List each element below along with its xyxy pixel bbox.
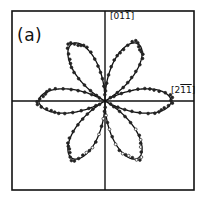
data-marker <box>81 118 84 121</box>
data-marker <box>85 151 88 154</box>
data-marker <box>80 109 83 112</box>
data-marker <box>83 84 86 87</box>
label-part: ] <box>192 85 196 95</box>
data-marker <box>118 110 121 113</box>
data-marker <box>121 152 124 155</box>
data-marker <box>40 106 43 109</box>
label-part: ] <box>131 11 135 21</box>
data-marker <box>99 71 102 74</box>
data-marker <box>103 93 106 96</box>
data-marker <box>97 65 100 68</box>
data-marker <box>94 141 97 144</box>
data-marker <box>113 59 116 62</box>
data-marker <box>48 88 51 91</box>
data-marker <box>70 88 73 91</box>
data-marker <box>66 142 69 145</box>
data-marker <box>143 87 146 90</box>
x-direction-label: [211] <box>171 85 195 95</box>
data-marker <box>104 90 107 93</box>
data-marker <box>36 100 39 103</box>
data-marker <box>109 103 112 106</box>
data-marker <box>138 63 141 66</box>
data-marker <box>138 159 141 162</box>
data-marker <box>88 149 91 152</box>
data-marker <box>70 159 73 162</box>
data-marker <box>87 107 90 110</box>
data-marker <box>134 39 137 42</box>
data-marker <box>122 48 125 51</box>
data-marker <box>112 105 115 108</box>
data-marker <box>131 40 134 43</box>
data-marker <box>100 125 103 128</box>
data-marker <box>141 57 144 60</box>
data-marker <box>124 115 127 118</box>
data-marker <box>119 51 122 54</box>
data-marker <box>50 109 53 112</box>
data-marker <box>139 142 142 145</box>
data-marker <box>90 93 93 96</box>
data-marker <box>134 70 137 73</box>
data-marker <box>38 98 41 101</box>
data-marker <box>139 138 142 141</box>
data-marker <box>91 146 94 149</box>
data-marker <box>104 106 107 109</box>
data-marker <box>158 90 161 93</box>
data-marker <box>69 156 72 159</box>
data-marker <box>171 96 174 99</box>
data-marker <box>158 111 161 114</box>
data-marker <box>95 104 98 107</box>
label-part: [2 <box>171 85 180 95</box>
data-marker <box>105 82 108 85</box>
data-marker <box>89 89 92 92</box>
data-marker <box>170 99 173 102</box>
data-marker <box>63 112 66 115</box>
data-marker <box>91 108 94 111</box>
data-marker <box>120 92 123 95</box>
data-marker <box>103 110 106 113</box>
data-marker <box>77 89 80 92</box>
data-marker <box>127 154 130 157</box>
data-marker <box>122 86 125 89</box>
data-marker <box>67 43 70 46</box>
data-marker <box>116 106 119 109</box>
data-marker <box>116 91 119 94</box>
data-marker <box>69 62 72 65</box>
data-marker <box>147 112 150 115</box>
data-marker <box>167 104 170 107</box>
data-marker <box>77 157 80 160</box>
data-marker <box>42 95 45 98</box>
data-marker <box>111 135 114 138</box>
data-marker <box>123 108 126 111</box>
data-marker <box>44 93 47 96</box>
data-marker <box>98 103 101 106</box>
label-part: [01 <box>110 11 125 21</box>
data-marker <box>106 121 109 124</box>
data-marker <box>89 51 92 54</box>
data-marker <box>140 156 143 159</box>
data-marker <box>109 96 112 99</box>
data-marker <box>105 114 108 117</box>
data-marker <box>128 90 131 93</box>
data-marker <box>102 117 105 120</box>
data-marker <box>101 77 104 80</box>
data-marker <box>73 43 76 46</box>
data-marker <box>71 111 74 114</box>
data-marker <box>54 87 57 90</box>
data-marker <box>69 151 72 154</box>
data-marker <box>139 111 142 114</box>
data-marker <box>95 94 98 97</box>
data-marker <box>130 76 133 79</box>
data-marker <box>138 134 141 137</box>
y-direction-label: [011] <box>110 11 134 21</box>
data-marker <box>137 45 140 48</box>
data-marker <box>153 112 156 115</box>
data-marker <box>36 103 39 106</box>
data-marker <box>73 71 76 74</box>
data-marker <box>139 146 142 149</box>
data-marker <box>93 58 96 61</box>
data-marker <box>67 53 70 56</box>
data-marker <box>73 160 76 163</box>
data-marker <box>126 81 129 84</box>
data-marker <box>83 91 86 94</box>
data-marker <box>131 156 134 159</box>
